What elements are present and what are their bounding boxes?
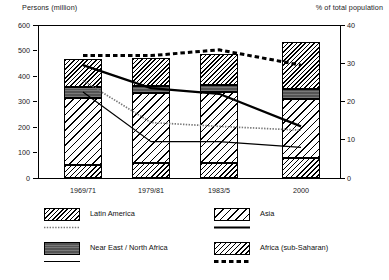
y-tick-label-left: 100 bbox=[4, 148, 30, 157]
y-tick-left bbox=[33, 76, 37, 77]
legend-line-sample-near-east bbox=[44, 259, 80, 264]
y-tick-left bbox=[33, 101, 37, 102]
y-tick-label-left: 300 bbox=[4, 97, 30, 106]
y-tick-label-left: 200 bbox=[4, 123, 30, 132]
y-tick-right bbox=[341, 139, 345, 140]
line-series-overlay bbox=[38, 25, 341, 178]
y-tick-right bbox=[341, 63, 345, 64]
legend-line-sample-asia bbox=[214, 225, 250, 230]
y-tick-left bbox=[33, 25, 37, 26]
legend-swatch-near-east bbox=[44, 242, 80, 255]
legend-swatch-africa bbox=[214, 242, 250, 255]
y-tick-label-left: 400 bbox=[4, 72, 30, 81]
y-tick-label-left: 500 bbox=[4, 46, 30, 55]
y-tick-right bbox=[341, 178, 345, 179]
line-series bbox=[83, 92, 301, 147]
chart-legend: Latin AmericaNear East / North Africa As… bbox=[0, 206, 389, 280]
y-tick-label-left: 0 bbox=[4, 174, 30, 183]
y-tick-label-right: 20 bbox=[347, 97, 355, 106]
line-series bbox=[83, 65, 301, 126]
x-axis-label: 2000 bbox=[271, 186, 331, 195]
line-series bbox=[83, 50, 301, 65]
y-tick-label-left: 600 bbox=[4, 21, 30, 30]
legend-label-near-east: Near East / North Africa bbox=[90, 243, 168, 252]
y-tick-label-right: 0 bbox=[347, 174, 351, 183]
x-axis-label: 1969/71 bbox=[53, 186, 113, 195]
y-axis-title-left: Persons (million) bbox=[22, 3, 77, 12]
legend-swatch-asia bbox=[214, 208, 250, 221]
legend-line-sample-africa bbox=[214, 259, 250, 264]
legend-label-africa: Africa (sub-Saharan) bbox=[260, 243, 328, 252]
y-tick-right bbox=[341, 25, 345, 26]
y-tick-left bbox=[33, 152, 37, 153]
y-tick-label-right: 10 bbox=[347, 135, 355, 144]
y-tick-left bbox=[33, 178, 37, 179]
y-tick-left bbox=[33, 50, 37, 51]
plot-area: 0100200300400500600 010203040 bbox=[38, 25, 341, 178]
y-tick-label-right: 30 bbox=[347, 59, 355, 68]
y-axis-title-right: % of total population bbox=[316, 3, 383, 12]
x-axis bbox=[36, 178, 343, 179]
legend-swatch-latin-america bbox=[44, 208, 80, 221]
x-axis-label: 1979/81 bbox=[121, 186, 181, 195]
y-tick-right bbox=[341, 101, 345, 102]
y-tick-left bbox=[33, 127, 37, 128]
y-tick-label-right: 40 bbox=[347, 21, 355, 30]
legend-label-asia: Asia bbox=[260, 209, 274, 218]
legend-line-sample-latin-america bbox=[44, 225, 80, 230]
chart-container: Persons (million) % of total population … bbox=[0, 0, 389, 280]
line-series bbox=[83, 80, 301, 130]
legend-label-latin-america: Latin America bbox=[90, 209, 135, 218]
x-axis-label: 1983/5 bbox=[189, 186, 249, 195]
